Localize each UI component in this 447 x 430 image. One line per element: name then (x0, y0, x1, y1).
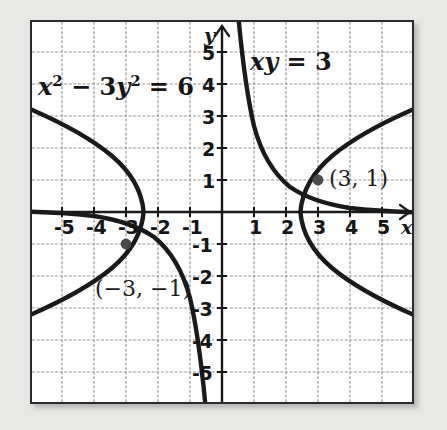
intersection-marker-3-1 (313, 175, 324, 186)
curve-xy-3-branch-q1 (238, 22, 412, 212)
curve-xy-3-branch-q3 (32, 212, 206, 402)
graph-canvas (32, 22, 412, 402)
intersection-marker-neg3-neg1 (121, 239, 132, 250)
figure-root: x2 − 3y2 = 6 xy = 3 (3, 1) (−3, −1) -5 -… (0, 0, 447, 430)
plot-frame: x2 − 3y2 = 6 xy = 3 (3, 1) (−3, −1) -5 -… (30, 20, 414, 404)
